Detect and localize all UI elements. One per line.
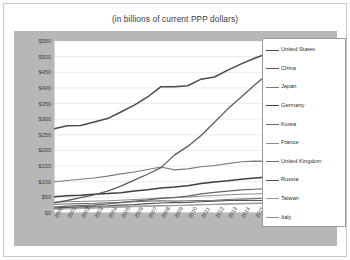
legend-color-swatch [266,105,279,106]
legend-item-label: France [281,140,299,146]
legend-item[interactable]: Italy [266,212,291,222]
chart-legend: United StatesChinaJapanGermanyKoreaFranc… [262,38,346,227]
legend-item-label: United Kingdom [281,159,321,165]
legend-item-label: Japan [281,84,297,90]
series-line [54,74,268,203]
y-axis-tick-label: $300 [27,116,51,122]
y-axis: $0$50$100$150$200$250$300$350$400$450$50… [24,41,51,213]
legend-item-label: Germany [281,103,304,109]
legend-item[interactable]: Korea [266,119,296,129]
legend-item-label: United States [281,47,315,53]
legend-item-label: Italy [281,215,291,221]
chart-title: (in billions of current PPP dollars) [0,14,350,24]
legend-color-swatch [266,198,279,199]
legend-color-swatch [266,50,279,51]
legend-item[interactable]: Japan [266,82,297,92]
legend-item-label: Russia [281,177,298,183]
legend-color-swatch [266,124,279,125]
y-axis-tick-label: $250 [27,132,51,138]
series-line [54,53,268,129]
legend-item[interactable]: China [266,64,296,74]
series-line [54,177,268,197]
legend-color-swatch [266,180,279,181]
y-axis-tick-label: $400 [27,85,51,91]
legend-item-label: Taiwan [281,196,299,202]
y-axis-tick-label: $100 [27,179,51,185]
legend-item[interactable]: Germany [266,101,304,111]
y-axis-tick-label: $150 [27,163,51,169]
legend-color-swatch [266,161,279,162]
y-axis-tick-label: $350 [27,101,51,107]
legend-color-swatch [266,68,279,69]
y-axis-tick-label: $550 [27,38,51,44]
legend-color-swatch [266,143,279,144]
y-axis-tick-label: $450 [27,69,51,75]
chart-figure: (in billions of current PPP dollars) $0$… [0,0,350,260]
legend-color-swatch [266,217,279,218]
y-axis-tick-label: $0 [27,210,51,216]
legend-item[interactable]: Taiwan [266,194,299,204]
series-line [54,161,268,182]
legend-item[interactable]: Russia [266,175,298,185]
y-axis-tick-label: $50 [27,194,51,200]
y-axis-tick-label: $500 [27,54,51,60]
x-axis: 2000200120022003200420052006200720082009… [54,214,268,244]
legend-item[interactable]: France [266,138,299,148]
legend-item[interactable]: United States [266,45,315,55]
legend-item-label: Korea [281,122,296,128]
plot-region [54,41,268,213]
chart-lines [54,41,268,213]
y-axis-tick-label: $200 [27,147,51,153]
legend-item-label: China [281,66,296,72]
legend-color-swatch [266,87,279,88]
legend-item[interactable]: United Kingdom [266,157,321,167]
